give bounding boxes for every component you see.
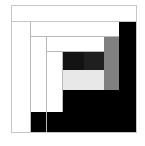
block-outline	[11, 21, 137, 133]
outer-band-frame	[11, 5, 137, 22]
quilt-block-canvas	[0, 0, 145, 146]
